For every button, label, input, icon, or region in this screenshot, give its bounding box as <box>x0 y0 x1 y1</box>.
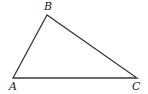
triangle-abc <box>13 15 137 78</box>
vertex-label-c: C <box>132 80 141 93</box>
triangle-diagram: A B C <box>0 0 148 94</box>
vertex-label-b: B <box>43 0 52 13</box>
vertex-label-a: A <box>8 80 17 93</box>
